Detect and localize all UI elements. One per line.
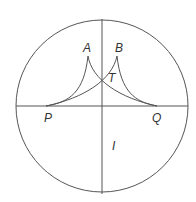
- label-p: P: [44, 111, 52, 125]
- diagram-canvas: A B T P Q I: [0, 0, 196, 202]
- label-b: B: [115, 41, 123, 55]
- label-t: T: [108, 71, 117, 85]
- label-q: Q: [152, 111, 161, 125]
- label-a: A: [82, 41, 91, 55]
- label-i: I: [112, 139, 116, 153]
